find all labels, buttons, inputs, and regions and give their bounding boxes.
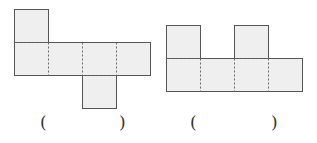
answer-close-paren-2: ) (271, 114, 278, 131)
answer-open-paren-1: ( (40, 114, 47, 131)
net-figure-left (15, 10, 151, 109)
answer-open-paren-2: ( (190, 114, 197, 131)
net-figure-right (167, 26, 303, 92)
cube-nets-diagram (0, 0, 317, 143)
answer-close-paren-1: ) (119, 114, 126, 131)
